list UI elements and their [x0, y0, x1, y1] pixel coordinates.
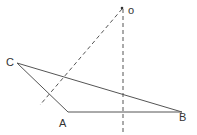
point-o-dot — [121, 7, 124, 10]
label-b: B — [179, 111, 186, 123]
edge-cb — [17, 63, 182, 112]
label-o: o — [128, 4, 134, 16]
label-c: C — [6, 56, 14, 68]
label-a: A — [59, 117, 67, 129]
perspective-diagram: o C A B — [0, 0, 197, 135]
